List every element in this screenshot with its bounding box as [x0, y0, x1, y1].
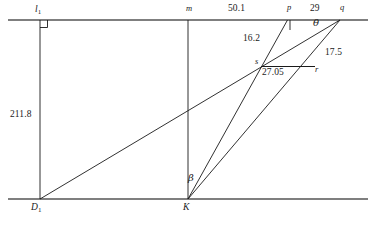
measurement-label-pq-29: 29 — [310, 4, 320, 14]
measurement-label-qr-17-5: 17.5 — [325, 48, 342, 58]
geometry-diagram: l1 m p q s r D1 K 50.1 29 16.2 17.5 27.0… — [0, 0, 373, 230]
line-K-to-q — [188, 20, 340, 199]
diagram-canvas — [0, 0, 373, 230]
point-label-D1-subscript: 1 — [38, 206, 42, 214]
point-label-s: s — [255, 57, 258, 66]
vertical-lines — [40, 20, 188, 199]
point-label-r: r — [315, 65, 318, 74]
measurement-label-sp-16-2: 16.2 — [243, 34, 260, 44]
angle-label-beta: β — [188, 173, 194, 183]
point-label-p: p — [287, 3, 291, 12]
point-label-l1: l1 — [35, 5, 41, 16]
point-label-K: K — [183, 203, 189, 213]
right-angle-mark-icon — [40, 20, 48, 28]
point-label-q: q — [340, 3, 344, 12]
measurement-label-pm-50-1: 50.1 — [228, 4, 245, 14]
point-label-m: m — [186, 4, 192, 13]
measurement-label-height-211-8: 211.8 — [10, 110, 32, 120]
angle-label-theta: θ — [313, 18, 319, 28]
measure-marks — [40, 20, 290, 30]
line-K-to-p — [188, 20, 288, 199]
measurement-label-sr-27-05: 27.05 — [262, 68, 284, 78]
point-label-l1-subscript: 1 — [38, 8, 42, 16]
point-label-D1: D1 — [31, 203, 41, 214]
